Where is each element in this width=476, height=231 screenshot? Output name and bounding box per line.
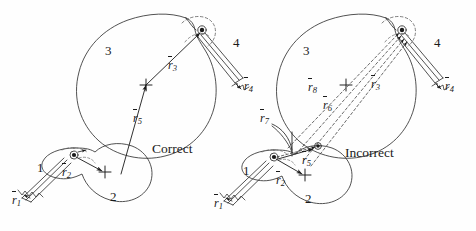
link-1-inner-line — [26, 160, 67, 200]
r6-subscript: 6 — [328, 103, 332, 113]
r2-symbol: r — [62, 165, 67, 179]
vector-r3-dashed — [304, 39, 404, 160]
joint-pin-upper-inner — [400, 28, 404, 32]
r4-symbol: r — [445, 79, 450, 93]
body-3-notch — [186, 18, 196, 30]
r1-subscript: 1 — [219, 201, 223, 211]
right-vector-r1-label: r1 — [214, 196, 223, 211]
left-body-2-label: 2 — [110, 189, 117, 205]
body-2-outline — [242, 146, 352, 204]
right-vector-r4-label: r4 — [445, 79, 454, 94]
left-vector-r2-label: r2 — [62, 165, 71, 180]
r3-subscript: 3 — [376, 82, 380, 92]
r5-subscript: 5 — [307, 158, 311, 168]
right-panel-caption: Incorrect — [345, 145, 394, 161]
left-body-4-label: 4 — [233, 35, 240, 51]
r4-subscript: 4 — [249, 84, 253, 94]
right-body-3-label: 3 — [303, 43, 310, 59]
right-panel-graphics — [220, 14, 449, 205]
left-body-1-label: 1 — [37, 160, 44, 176]
left-vector-r5-label: r5 — [133, 111, 142, 126]
r3-symbol: r — [168, 58, 173, 72]
r2-symbol: r — [276, 173, 281, 187]
r8-subscript: 8 — [313, 85, 317, 95]
r5-subscript: 5 — [138, 116, 142, 126]
r2-subscript: 2 — [67, 170, 71, 180]
r1-subscript: 1 — [17, 198, 21, 208]
r4-symbol: r — [244, 79, 249, 93]
r2-subscript: 2 — [281, 178, 285, 188]
right-vector-r3-label: r3 — [371, 77, 380, 92]
r7-subscript: 7 — [265, 116, 269, 126]
left-body-3-label: 3 — [105, 43, 112, 59]
left-panel-graphics — [18, 14, 249, 202]
r4-subscript: 4 — [450, 84, 454, 94]
vector-r5 — [121, 85, 146, 174]
right-vector-r8-label: r8 — [308, 80, 317, 95]
right-vector-r7-label: r7 — [260, 111, 269, 126]
link-4-cap — [235, 78, 243, 83]
body-2-center-marker — [299, 169, 311, 181]
right-vector-r6-label: r6 — [323, 98, 332, 113]
left-vector-r4-label: r4 — [244, 79, 253, 94]
upper-joint-dashed-arc — [182, 16, 215, 46]
r5-symbol: r — [133, 111, 138, 125]
body-3-notch — [386, 18, 396, 30]
link-4-bar-2 — [398, 37, 435, 83]
body-2-center-marker — [99, 166, 111, 178]
r8-symbol: r — [308, 80, 313, 94]
left-vector-r1-label: r1 — [12, 193, 21, 208]
right-body-4-label: 4 — [434, 35, 441, 51]
r1-symbol: r — [12, 193, 17, 207]
body-2-outline — [42, 144, 152, 202]
r6-symbol: r — [323, 98, 328, 112]
right-vector-r2-label: r2 — [276, 173, 285, 188]
vector-r2 — [76, 157, 102, 171]
left-panel-caption: Correct — [152, 141, 192, 157]
joint-pin-lower-inner — [272, 155, 276, 159]
link-4-bar-2 — [198, 37, 235, 83]
right-body-2-label: 2 — [305, 191, 312, 207]
body-3-center-marker — [340, 79, 352, 91]
right-body-1-label: 1 — [243, 163, 250, 179]
link-4-cap — [435, 78, 443, 83]
r1-symbol: r — [214, 196, 219, 210]
r3-symbol: r — [371, 77, 376, 91]
right-vector-r5-label: r5 — [302, 153, 311, 168]
figure-canvas: 3 4 1 2 r1 r2 r3 r4 r5 Correct 3 4 1 2 r… — [0, 0, 476, 231]
left-vector-r3-label: r3 — [168, 58, 177, 73]
upper-joint-dashed-arc — [382, 16, 415, 46]
r5-symbol: r — [302, 153, 307, 167]
r3-subscript: 3 — [173, 63, 177, 73]
joint-pin-lower-inner — [72, 153, 76, 157]
r7-symbol: r — [260, 111, 265, 125]
r5-tail-tick — [78, 150, 86, 152]
joint-pin-upper-inner — [200, 28, 204, 32]
